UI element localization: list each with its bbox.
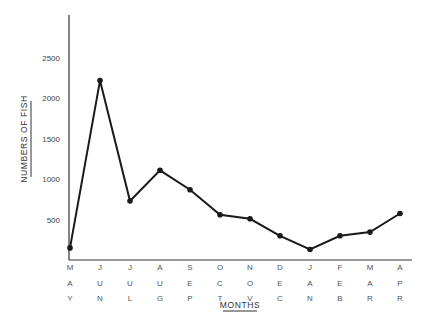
x-tick-label-letter: J xyxy=(308,263,312,272)
data-point-marker xyxy=(307,247,313,253)
x-tick-label-letter: A xyxy=(367,279,373,288)
line-chart: 5001000150020002500 MAYJUNJULAUGSEPOCTNO… xyxy=(0,0,431,329)
data-point-marker xyxy=(247,216,253,222)
x-tick-label-letter: J xyxy=(128,263,132,272)
x-tick-label-letter: O xyxy=(247,279,253,288)
data-markers xyxy=(67,78,403,253)
y-tick-label: 2000 xyxy=(42,94,60,103)
y-tick-label: 2500 xyxy=(42,54,60,63)
x-tick-label-letter: B xyxy=(337,294,342,303)
x-axis-title: MONTHS xyxy=(220,300,260,310)
x-tick-label-letter: C xyxy=(217,279,223,288)
x-month-labels: MAYJUNJULAUGSEPOCTNOVDECJANFEBMARAPR xyxy=(67,263,404,303)
data-point-marker xyxy=(157,168,163,174)
x-tick-label-letter: N xyxy=(247,263,253,272)
x-tick-label-letter: U xyxy=(157,279,163,288)
x-tick-label-letter: L xyxy=(128,294,133,303)
y-tick-label: 1000 xyxy=(42,175,60,184)
x-tick-label-letter: A xyxy=(67,279,73,288)
x-tick-label-letter: J xyxy=(98,263,102,272)
x-tick-label-letter: A xyxy=(157,263,163,272)
x-tick-label-letter: R xyxy=(397,294,403,303)
x-tick-label-letter: A xyxy=(307,279,313,288)
x-tick-label-letter: G xyxy=(157,294,163,303)
y-axis-title-group: NUMBERS OF FISH xyxy=(19,95,29,182)
x-tick-label-letter: M xyxy=(367,263,374,272)
x-tick-label-letter: C xyxy=(277,294,283,303)
x-tick-label-letter: E xyxy=(187,279,192,288)
data-point-marker xyxy=(397,211,403,217)
data-point-marker xyxy=(337,233,343,239)
x-tick-label-letter: E xyxy=(337,279,342,288)
y-tick-label: 500 xyxy=(47,216,61,225)
y-tick-labels: 5001000150020002500 xyxy=(42,54,60,225)
x-tick-label-letter: M xyxy=(67,263,74,272)
x-tick-label-letter: E xyxy=(277,279,282,288)
x-tick-label-letter: Y xyxy=(67,294,73,303)
data-point-marker xyxy=(277,233,283,239)
data-point-marker xyxy=(367,229,373,235)
data-line xyxy=(70,81,400,250)
x-tick-label-letter: F xyxy=(338,263,343,272)
x-tick-label-letter: P xyxy=(187,294,192,303)
data-point-marker xyxy=(67,245,73,251)
x-tick-label-letter: N xyxy=(97,294,103,303)
data-point-marker xyxy=(187,187,193,193)
x-tick-label-letter: D xyxy=(277,263,283,272)
data-point-marker xyxy=(217,212,223,218)
data-point-marker xyxy=(127,198,133,204)
y-tick-label: 1500 xyxy=(42,135,60,144)
data-point-marker xyxy=(97,78,103,84)
x-tick-label-letter: U xyxy=(127,279,133,288)
x-tick-label-letter: P xyxy=(397,279,402,288)
x-tick-label-letter: U xyxy=(97,279,103,288)
x-tick-label-letter: R xyxy=(367,294,373,303)
x-tick-label-letter: N xyxy=(307,294,313,303)
x-tick-label-letter: A xyxy=(397,263,403,272)
x-tick-label-letter: O xyxy=(217,263,223,272)
y-axis-title: NUMBERS OF FISH xyxy=(19,95,29,182)
x-tick-label-letter: S xyxy=(187,263,192,272)
